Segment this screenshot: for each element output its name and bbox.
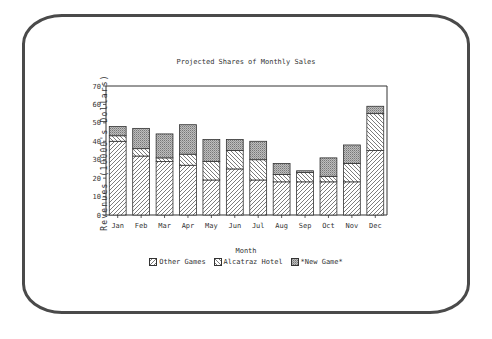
bar-segment xyxy=(273,163,290,174)
bar-segment xyxy=(250,141,267,159)
bar-segment xyxy=(203,162,220,180)
x-tick-label: Sep xyxy=(299,222,312,230)
x-axis-label: Month xyxy=(0,247,492,255)
bar-segment xyxy=(250,180,267,215)
bar-jan xyxy=(109,127,126,215)
bar-feb xyxy=(133,128,150,215)
bar-segment xyxy=(109,141,126,215)
y-tick-label: 40 xyxy=(93,138,101,146)
bar-may xyxy=(203,139,220,215)
bar-mar xyxy=(156,134,173,215)
bar-dec xyxy=(367,106,384,215)
legend: Other Games Alcatraz Hotel *New Game* xyxy=(0,258,492,266)
alcatraz-hotel-swatch-icon xyxy=(214,258,222,266)
y-tick-label: 30 xyxy=(93,156,101,164)
bar-aug xyxy=(273,163,290,215)
y-tick-label: 20 xyxy=(93,175,101,183)
legend-item-alcatraz-hotel: Alcatraz Hotel xyxy=(214,258,283,266)
bar-jun xyxy=(226,139,243,215)
bar-segment xyxy=(226,139,243,150)
bar-segment xyxy=(180,125,197,154)
bar-segment xyxy=(226,151,243,169)
x-tick-label: Jan xyxy=(111,222,124,230)
x-tick-label: Aug xyxy=(275,222,288,230)
bar-segment xyxy=(320,182,337,215)
x-tick-label: Oct xyxy=(322,222,335,230)
other-games-swatch-icon xyxy=(149,258,157,266)
bar-segment xyxy=(250,160,267,180)
bar-segment xyxy=(109,136,126,142)
bar-segment xyxy=(367,114,384,151)
x-tick-label: Nov xyxy=(346,222,359,230)
bar-segment xyxy=(156,134,173,158)
x-tick-label: Feb xyxy=(135,222,148,230)
legend-item-other-games: Other Games xyxy=(149,258,205,266)
new-game-swatch-icon xyxy=(291,258,299,266)
bar-segment xyxy=(133,156,150,215)
bar-segment xyxy=(297,182,314,215)
x-tick-label: Mar xyxy=(158,222,171,230)
y-tick-label: 70 xyxy=(93,83,101,91)
bar-segment xyxy=(343,182,360,215)
x-tick-label: Jun xyxy=(228,222,241,230)
bar-segment xyxy=(133,128,150,148)
bar-jul xyxy=(250,141,267,215)
bar-segment xyxy=(297,171,314,173)
bar-segment xyxy=(320,158,337,176)
bar-segment xyxy=(273,182,290,215)
bar-oct xyxy=(320,158,337,215)
bar-segment xyxy=(226,169,243,215)
legend-item-new-game: *New Game* xyxy=(291,258,343,266)
x-tick-label: Dec xyxy=(369,222,382,230)
chart-plot: 010203040506070JanFebMarAprMayJunJulAugS… xyxy=(0,0,492,339)
bar-segment xyxy=(320,176,337,182)
x-tick-label: Apr xyxy=(182,222,195,230)
bar-apr xyxy=(180,125,197,215)
bar-segment xyxy=(156,158,173,162)
bar-sep xyxy=(297,171,314,215)
bar-segment xyxy=(367,106,384,113)
y-tick-label: 0 xyxy=(97,212,101,220)
bar-segment xyxy=(180,165,197,215)
bar-segment xyxy=(367,151,384,216)
bar-segment xyxy=(109,127,126,136)
bar-segment xyxy=(133,149,150,156)
bar-segment xyxy=(273,174,290,181)
bar-segment xyxy=(203,180,220,215)
bar-segment xyxy=(343,145,360,163)
bar-segment xyxy=(343,163,360,181)
y-tick-label: 60 xyxy=(93,101,101,109)
bar-segment xyxy=(203,139,220,161)
bar-nov xyxy=(343,145,360,215)
bar-segment xyxy=(180,154,197,165)
bar-segment xyxy=(156,162,173,215)
x-tick-label: Jul xyxy=(252,222,265,230)
y-tick-label: 50 xyxy=(93,119,101,127)
y-tick-label: 10 xyxy=(93,193,101,201)
bar-segment xyxy=(297,173,314,182)
x-tick-label: May xyxy=(205,222,218,230)
